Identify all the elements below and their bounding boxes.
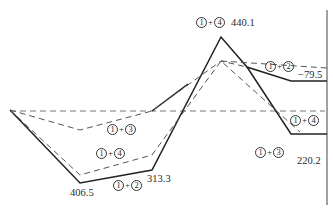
solid-upper: [10, 37, 327, 183]
circled-number: 2: [131, 180, 142, 191]
circled-number: 1: [265, 61, 276, 72]
circled-number: 1: [196, 17, 207, 28]
value-label-mid-min: 313.3: [147, 174, 171, 185]
value-label-left-min: 406.5: [70, 188, 94, 199]
circled-number: 4: [114, 148, 125, 159]
combo-label-1-2-right: 1+2: [265, 61, 294, 72]
circled-number: 2: [283, 61, 294, 72]
circled-number: 1: [113, 180, 124, 191]
combo-label-1-4-right: 1+4: [290, 115, 319, 126]
circled-number: 1: [107, 124, 118, 135]
circled-number: 3: [273, 147, 284, 158]
circled-number: 1: [255, 147, 266, 158]
circled-number: 4: [308, 115, 319, 126]
combo-label-1-3-left: 1+3: [107, 124, 136, 135]
combo-label-1-4-left: 1+4: [96, 148, 125, 159]
dashed-combo-1-3: [10, 61, 247, 130]
circled-number: 4: [214, 17, 225, 28]
combo-label-1-3-right: 1+3: [255, 147, 284, 158]
circled-number: 1: [290, 115, 301, 126]
circled-number: 3: [125, 124, 136, 135]
combo-label-1-4-top: 1+4: [196, 17, 225, 28]
value-label-right-lower: 220.2: [297, 156, 321, 167]
combo-label-1-2-bottom: 1+2: [113, 180, 142, 191]
circled-number: 1: [96, 148, 107, 159]
value-label-peak: 440.1: [231, 18, 255, 29]
value-label-right-upper: −79.5: [298, 70, 322, 81]
